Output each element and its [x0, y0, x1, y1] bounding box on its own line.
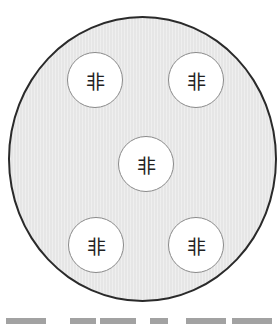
node-top-left: 非 [67, 52, 123, 108]
cropped-caption [0, 312, 278, 324]
node-label: 非 [86, 67, 105, 94]
node-center: 非 [118, 136, 174, 192]
node-label: 非 [187, 67, 206, 94]
node-label: 非 [187, 232, 206, 259]
node-bottom-right: 非 [168, 217, 224, 273]
node-top-right: 非 [168, 52, 224, 108]
node-label: 非 [137, 151, 156, 178]
node-label: 非 [87, 232, 106, 259]
node-bottom-left: 非 [68, 217, 124, 273]
